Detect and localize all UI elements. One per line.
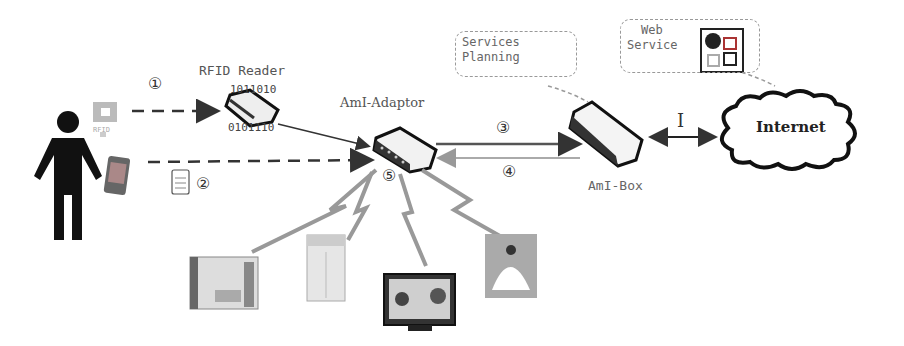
mobile-phone-icon (103, 156, 130, 196)
aml-box-icon (570, 102, 642, 166)
wireless-signals (252, 170, 500, 266)
aml-box-label: AmI-Box (588, 178, 643, 193)
lamp-icon (485, 234, 537, 298)
services-planning-line2: Planning (462, 50, 570, 65)
services-planning-bubble: Services Planning (455, 31, 577, 77)
internet-label: Internet (756, 118, 826, 136)
television-icon (384, 274, 455, 331)
diagram-canvas (0, 0, 904, 346)
step-5-badge: ⑤ (382, 166, 396, 185)
aml-adaptor-label: AmI-Adaptor (340, 95, 424, 110)
web-service-line1: Web (627, 23, 753, 38)
rfid-bits-top: 1011010 (230, 83, 276, 96)
curtain-device-icon (190, 257, 258, 309)
step-3-badge: ③ (496, 118, 510, 137)
step-1-badge: ① (148, 74, 162, 93)
rfid-bits-bottom: 0101110 (228, 121, 274, 134)
rfid-tag-label: RFID (93, 126, 110, 134)
step-2-badge: ② (196, 174, 210, 193)
user-icon (34, 111, 102, 240)
link-I-label: I (677, 110, 684, 131)
arrow-phone-to-adaptor (148, 160, 370, 162)
air-conditioner-icon (307, 235, 345, 301)
step-4-badge: ④ (502, 162, 516, 181)
services-planning-line1: Services (462, 35, 570, 50)
web-service-line2: Service (627, 38, 753, 53)
web-service-bubble: Web Service (620, 19, 760, 73)
rfid-reader-label: RFID Reader (199, 63, 285, 78)
document-icon (172, 170, 189, 194)
link-reader-to-adaptor (278, 124, 368, 146)
